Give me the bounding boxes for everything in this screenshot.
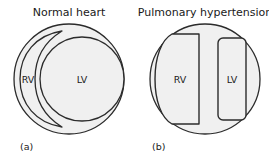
panel-b-title: Pulmonary hypertension: [138, 6, 269, 19]
panel-b-lv-label: LV: [227, 74, 238, 85]
panel-a-title: Normal heart: [33, 6, 106, 19]
panel-a-caption: (a): [20, 141, 33, 152]
panel-a-lv-label: LV: [77, 74, 88, 85]
figure-root: Normal heart RV LV (a) Pulmonary hyperte…: [0, 0, 269, 158]
heart-cross-section-diagram: Normal heart RV LV (a) Pulmonary hyperte…: [0, 0, 269, 158]
panel-normal-heart: Normal heart RV LV (a): [14, 6, 124, 152]
panel-a-rv-label: RV: [22, 74, 35, 85]
panel-b-rv-label: RV: [174, 74, 187, 85]
panel-b-caption: (b): [152, 141, 165, 152]
panel-pulmonary-hypertension: Pulmonary hypertension RV LV (b): [138, 6, 269, 152]
